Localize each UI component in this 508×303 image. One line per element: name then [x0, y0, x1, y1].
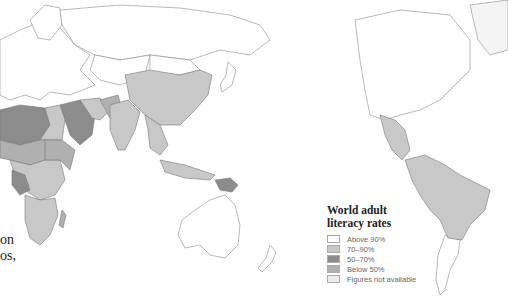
region-greenland — [470, 0, 508, 55]
legend-label: Above 90% — [347, 235, 385, 244]
region-japan — [220, 62, 236, 92]
legend-label: 50–70% — [347, 255, 375, 264]
legend-label: Below 50% — [347, 265, 385, 274]
swatch-icon — [327, 265, 340, 273]
legend-label: Figures not available — [347, 275, 416, 284]
side-text-line-1: on — [0, 232, 14, 248]
legend-title-line-2: literacy rates — [327, 217, 447, 230]
legend-item-not-available: Figures not available — [327, 274, 447, 284]
region-new-zealand — [258, 245, 276, 272]
legend-item-above-90: Above 90% — [327, 234, 447, 244]
region-southern-africa — [25, 195, 58, 245]
swatch-icon — [327, 255, 340, 263]
legend-title: World adult literacy rates — [327, 204, 447, 230]
map-legend: World adult literacy rates Above 90% 70–… — [327, 204, 447, 284]
region-indonesia — [160, 160, 215, 180]
region-papua-new-guinea — [215, 178, 238, 192]
legend-item-below-50: Below 50% — [327, 264, 447, 274]
legend-title-line-1: World adult — [327, 204, 447, 217]
side-text-line-2: os, — [0, 248, 16, 264]
swatch-icon — [327, 275, 340, 283]
region-russia — [60, 5, 270, 60]
legend-item-70-90: 70–90% — [327, 244, 447, 254]
legend-item-50-70: 50–70% — [327, 254, 447, 264]
swatch-icon — [327, 245, 340, 253]
legend-label: 70–90% — [347, 245, 375, 254]
swatch-icon — [327, 235, 340, 243]
region-madagascar — [59, 210, 66, 228]
region-north-america — [355, 10, 470, 120]
region-australia — [178, 195, 240, 258]
region-india — [110, 100, 140, 150]
region-mexico — [380, 115, 410, 160]
